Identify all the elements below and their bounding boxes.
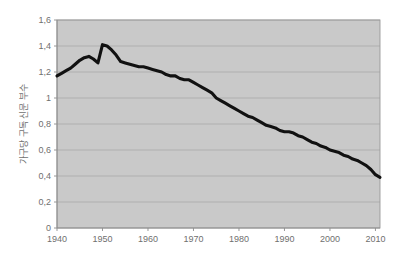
chart-canvas: 00,20,40,60,811,21,41,6 1940195019601970… <box>0 0 401 265</box>
y-tick-label: 1,6 <box>38 15 51 25</box>
x-tick-label: 2000 <box>320 234 340 244</box>
y-tick-label: 0 <box>46 223 51 233</box>
x-tick-label: 1950 <box>92 234 112 244</box>
y-tick-label: 0,8 <box>38 119 51 129</box>
x-tick-label: 1940 <box>47 234 67 244</box>
y-tick-label: 0,2 <box>38 197 51 207</box>
y-tick-label: 0,6 <box>38 145 51 155</box>
y-tick-label: 0,4 <box>38 171 51 181</box>
line-chart: 00,20,40,60,811,21,41,6 1940195019601970… <box>0 0 401 265</box>
y-tick-label: 1,4 <box>38 41 51 51</box>
x-tick-label: 1960 <box>138 234 158 244</box>
x-tick-label: 1990 <box>274 234 294 244</box>
y-tick-label: 1 <box>46 93 51 103</box>
y-tick-label: 1,2 <box>38 67 51 77</box>
x-tick-label: 1980 <box>229 234 249 244</box>
y-axis-title: 가구당 구독 신문 부수 <box>19 84 29 165</box>
x-tick-label: 2010 <box>365 234 385 244</box>
x-tick-label: 1970 <box>183 234 203 244</box>
y-axis-tick-labels: 00,20,40,60,811,21,41,6 <box>38 15 51 233</box>
